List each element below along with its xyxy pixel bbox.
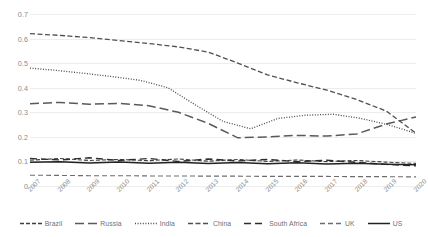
legend-item-russia[interactable]: Russia [75, 220, 121, 227]
series-line-india [30, 68, 416, 133]
legend-item-brazil[interactable]: Brazil [20, 220, 63, 227]
legend-label: Brazil [45, 220, 63, 227]
legend-item-us[interactable]: US [368, 220, 403, 227]
legend-item-india[interactable]: India [135, 220, 175, 227]
chart-legend: BrazilRussiaIndiaChinaSouth AfricaUKUS [0, 215, 422, 231]
legend-label: US [393, 220, 403, 227]
plot-area: 00.10.20.30.40.50.60.7 [0, 0, 422, 190]
legend-label: Russia [100, 220, 121, 227]
x-axis: 2007200820092010201120122013201420152016… [0, 188, 422, 214]
legend-swatch [244, 220, 266, 227]
legend-swatch [135, 220, 157, 227]
legend-swatch [368, 220, 390, 227]
legend-label: India [160, 220, 175, 227]
legend-label: UK [345, 220, 355, 227]
legend-swatch [320, 220, 342, 227]
legend-item-china[interactable]: China [188, 220, 231, 227]
series-lines [0, 0, 422, 190]
series-line-china [30, 34, 416, 134]
series-line-uk [30, 175, 416, 177]
series-line-south-africa [30, 158, 416, 166]
legend-item-uk[interactable]: UK [320, 220, 355, 227]
legend-swatch [188, 220, 210, 227]
legend-swatch [20, 220, 42, 227]
series-line-us [30, 162, 416, 165]
legend-label: China [213, 220, 231, 227]
legend-label: South Africa [269, 220, 307, 227]
legend-swatch [75, 220, 97, 227]
legend-item-south-africa[interactable]: South Africa [244, 220, 307, 227]
series-line-russia [30, 102, 416, 137]
